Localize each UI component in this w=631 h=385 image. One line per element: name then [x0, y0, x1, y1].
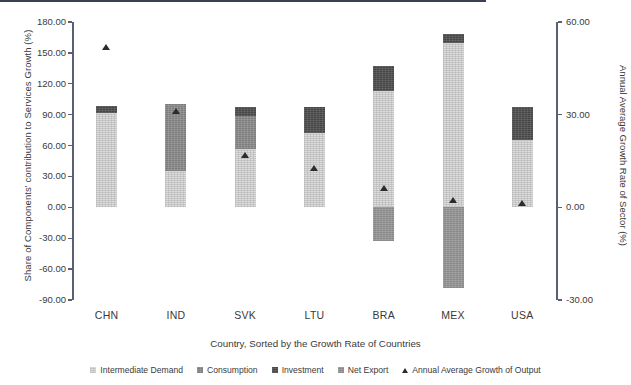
y-tick-mark-left — [68, 238, 72, 239]
zero-baseline — [0, 0, 486, 2]
bar-segment-investment — [235, 107, 256, 115]
y-tick-label-right: 30.00 — [566, 109, 624, 120]
y-tick-label-left: 0.00 — [8, 201, 66, 212]
x-tick-label-usa: USA — [492, 309, 552, 321]
bar-segment-investment — [96, 106, 117, 112]
square-swatch-netexport-icon — [338, 367, 344, 373]
bar-segment-investment — [443, 34, 464, 42]
growth-marker-chn — [102, 44, 110, 50]
growth-marker-svk — [241, 152, 249, 158]
bar-group-ind — [165, 22, 186, 300]
x-tick-label-chn: CHN — [77, 309, 137, 321]
bar-segment-intermediate-demand — [443, 43, 464, 208]
growth-marker-ltu — [310, 165, 318, 171]
legend-label: Investment — [282, 365, 324, 375]
y-tick-mark-right — [558, 21, 562, 22]
bar-group-chn — [96, 22, 117, 300]
y-tick-label-left: -90.00 — [8, 294, 66, 305]
y-tick-label-left: 180.00 — [8, 16, 66, 27]
growth-marker-usa — [518, 200, 526, 206]
bar-segment-consumption — [235, 116, 256, 149]
x-axis-label: Country, Sorted by the Growth Rate of Co… — [0, 338, 631, 349]
growth-marker-ind — [172, 108, 180, 114]
y-tick-label-left: 120.00 — [8, 78, 66, 89]
square-swatch-consumption-icon — [197, 367, 203, 373]
y-tick-label-left: -30.00 — [8, 232, 66, 243]
chart-legend: Intermediate DemandConsumptionInvestment… — [0, 365, 631, 375]
bar-group-bra — [373, 22, 394, 300]
y-tick-mark-left — [68, 52, 72, 53]
legend-label: Annual Average Growth of Output — [412, 365, 540, 375]
y-tick-mark-left — [68, 21, 72, 22]
bar-segment-investment — [373, 66, 394, 91]
growth-marker-mex — [449, 197, 457, 203]
growth-marker-bra — [380, 185, 388, 191]
bar-segment-investment — [512, 107, 533, 140]
y-tick-mark-left — [68, 268, 72, 269]
y-axis-label-right: Annual Average Growth Rate of Sector (%) — [618, 11, 629, 301]
x-tick-label-bra: BRA — [354, 309, 414, 321]
y-tick-mark-right — [558, 114, 562, 115]
x-tick-label-mex: MEX — [423, 309, 483, 321]
square-swatch-intermediate-icon — [90, 367, 96, 373]
y-axis-right-line — [556, 22, 558, 300]
y-tick-label-right: 0.00 — [566, 201, 624, 212]
bar-segment-intermediate-demand — [96, 113, 117, 208]
bar-group-usa — [512, 22, 533, 300]
legend-item-intermediate-demand[interactable]: Intermediate Demand — [90, 365, 183, 375]
y-tick-mark-right — [558, 207, 562, 208]
y-tick-mark-left — [68, 145, 72, 146]
y-tick-label-left: 90.00 — [8, 109, 66, 120]
y-tick-label-left: 30.00 — [8, 170, 66, 181]
y-tick-mark-right — [558, 299, 562, 300]
y-axis-left-line — [72, 22, 74, 300]
chart-figure: Share of Components' contribution to Ser… — [0, 0, 631, 385]
x-tick-label-ltu: LTU — [285, 309, 345, 321]
legend-label: Consumption — [207, 365, 258, 375]
y-tick-mark-left — [68, 176, 72, 177]
y-tick-mark-left — [68, 299, 72, 300]
y-tick-label-right: 60.00 — [566, 16, 624, 27]
bar-group-svk — [235, 22, 256, 300]
y-tick-label-left: -60.00 — [8, 263, 66, 274]
legend-label: Net Export — [348, 365, 389, 375]
legend-item-net-export[interactable]: Net Export — [338, 365, 389, 375]
bar-segment-net-export — [443, 207, 464, 287]
bar-segment-net-export — [373, 207, 394, 241]
y-tick-label-left: 150.00 — [8, 47, 66, 58]
triangle-marker-icon — [402, 368, 408, 373]
bar-segment-intermediate-demand — [165, 171, 186, 207]
y-tick-mark-left — [68, 207, 72, 208]
y-tick-label-left: 60.00 — [8, 140, 66, 151]
y-tick-label-right: -30.00 — [566, 294, 624, 305]
legend-item-consumption[interactable]: Consumption — [197, 365, 258, 375]
legend-label: Intermediate Demand — [100, 365, 183, 375]
y-tick-mark-left — [68, 114, 72, 115]
x-tick-label-svk: SVK — [215, 309, 275, 321]
bar-group-ltu — [304, 22, 325, 300]
square-swatch-investment-icon — [272, 367, 278, 373]
bar-segment-intermediate-demand — [512, 140, 533, 207]
legend-item-annual-average-growth-of-output[interactable]: Annual Average Growth of Output — [402, 365, 540, 375]
x-tick-label-ind: IND — [146, 309, 206, 321]
bar-segment-consumption — [165, 104, 186, 171]
legend-item-investment[interactable]: Investment — [272, 365, 324, 375]
y-tick-mark-left — [68, 83, 72, 84]
bar-segment-investment — [304, 107, 325, 133]
bar-group-mex — [443, 22, 464, 300]
